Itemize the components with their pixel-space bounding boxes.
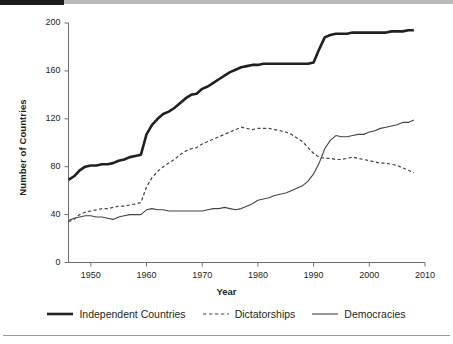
x-tick-label: 1950 <box>71 270 111 280</box>
x-tick-label: 1970 <box>182 270 222 280</box>
x-axis-title: Year <box>0 286 453 297</box>
y-tick-label: 40 <box>27 209 61 219</box>
legend-item-dictatorships: Dictatorships <box>203 308 296 320</box>
y-tick-label: 120 <box>27 113 61 123</box>
legend-item-democracies: Democracies <box>312 308 405 320</box>
legend-item-independent-countries: Independent Countries <box>47 308 185 320</box>
y-tick-label: 0 <box>27 257 61 267</box>
legend-label-independent-countries: Independent Countries <box>79 308 185 320</box>
bottom-rule <box>3 335 450 336</box>
legend-swatch-solid-thin <box>312 309 338 319</box>
y-axis-ticks <box>65 23 69 263</box>
x-tick-label: 1960 <box>126 270 166 280</box>
x-tick-label: 2010 <box>405 270 445 280</box>
y-tick-label: 160 <box>27 65 61 75</box>
series-line-independent-countries <box>69 30 414 180</box>
chart-legend: Independent Countries Dictatorships Demo… <box>0 308 453 320</box>
y-tick-label: 80 <box>27 161 61 171</box>
series-line-democracies <box>69 120 414 221</box>
series-line-dictatorships <box>69 127 414 222</box>
legend-label-democracies: Democracies <box>344 308 405 320</box>
y-tick-label: 200 <box>27 17 61 27</box>
x-tick-label: 1990 <box>294 270 334 280</box>
figure-page: 04080120160200 1950196019701980199020002… <box>0 0 453 344</box>
x-tick-label: 2000 <box>349 270 389 280</box>
x-tick-label: 1980 <box>238 270 278 280</box>
y-axis-title: Number of Countries <box>17 88 28 208</box>
legend-swatch-dashed <box>203 309 229 319</box>
x-axis-ticks <box>91 263 425 267</box>
legend-swatch-solid-thick <box>47 309 73 319</box>
legend-label-dictatorships: Dictatorships <box>235 308 296 320</box>
